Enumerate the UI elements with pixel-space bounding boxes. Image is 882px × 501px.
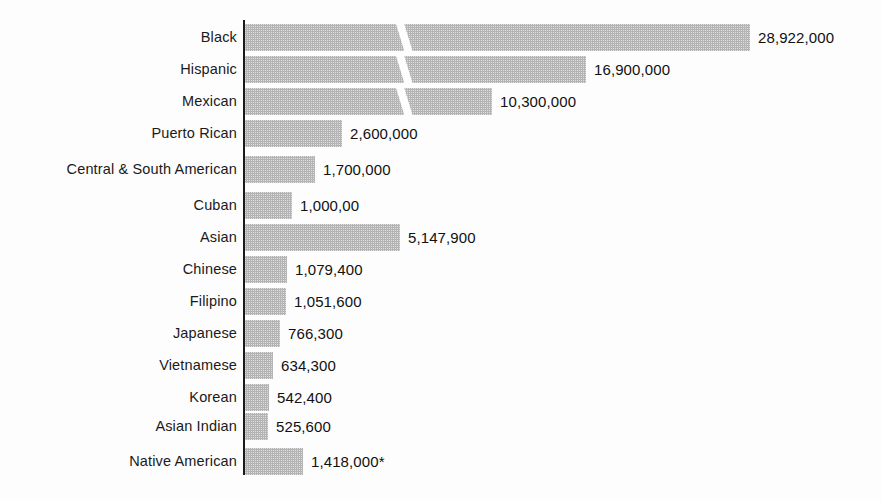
- bar: [245, 120, 342, 147]
- bar: [245, 384, 269, 411]
- category-label: Japanese: [0, 320, 237, 347]
- bar: [245, 448, 303, 475]
- value-label: 634,300: [281, 352, 336, 379]
- value-label: 28,922,000: [758, 24, 834, 51]
- value-label: 5,147,900: [408, 224, 476, 251]
- bar: [245, 56, 586, 83]
- category-label: Cuban: [0, 192, 237, 219]
- value-label: 16,900,000: [594, 56, 670, 83]
- value-label: 525,600: [276, 413, 331, 440]
- category-label: Asian Indian: [0, 413, 237, 440]
- bar: [245, 88, 492, 115]
- plot-area: Black28,922,000Hispanic16,900,000Mexican…: [0, 0, 882, 501]
- bar: [245, 192, 292, 219]
- category-label: Puerto Rican: [0, 120, 237, 147]
- category-label: Central & South American: [0, 156, 237, 183]
- bar: [245, 224, 400, 251]
- value-label: 1,700,000: [323, 156, 391, 183]
- bar: [245, 256, 287, 283]
- bar: [245, 413, 268, 440]
- value-label: 1,000,00: [300, 192, 359, 219]
- value-label: 2,600,000: [350, 120, 418, 147]
- category-label: Native American: [0, 448, 237, 475]
- bar: [245, 352, 273, 379]
- category-label: Korean: [0, 384, 237, 411]
- value-label: 1,418,000*: [311, 448, 385, 475]
- category-label: Chinese: [0, 256, 237, 283]
- value-label: 542,400: [277, 384, 332, 411]
- category-label: Asian: [0, 224, 237, 251]
- category-label: Vietnamese: [0, 352, 237, 379]
- value-label: 10,300,000: [500, 88, 576, 115]
- category-label: Mexican: [0, 88, 237, 115]
- bar: [245, 320, 280, 347]
- category-label: Black: [0, 24, 237, 51]
- category-label: Filipino: [0, 288, 237, 315]
- bar: [245, 156, 315, 183]
- category-label: Hispanic: [0, 56, 237, 83]
- value-label: 1,079,400: [295, 256, 363, 283]
- population-bar-chart: Black28,922,000Hispanic16,900,000Mexican…: [0, 0, 882, 501]
- bar: [245, 24, 750, 51]
- value-label: 1,051,600: [294, 288, 362, 315]
- value-label: 766,300: [288, 320, 343, 347]
- bar: [245, 288, 286, 315]
